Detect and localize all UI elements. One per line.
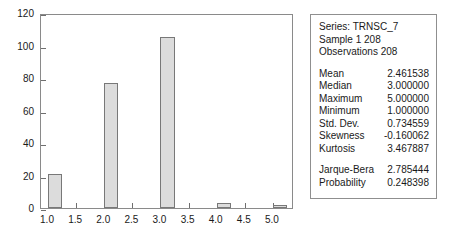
histogram-bar — [217, 203, 231, 208]
stats-header-line: Sample 1 208 — [319, 34, 429, 47]
stats-row-label: Jarque-Bera — [319, 164, 374, 177]
y-axis-tick-label: 60 — [0, 107, 34, 117]
x-axis-tick-label: 3.5 — [175, 215, 201, 225]
stats-row: Kurtosis3.467887 — [319, 143, 429, 156]
histogram-bar — [48, 174, 62, 208]
stats-row-value: 0.248398 — [387, 177, 429, 190]
x-axis-tick-label: 2.5 — [118, 215, 144, 225]
stats-header-line: Series: TRNSC_7 — [319, 21, 429, 34]
y-axis-tick-label: 0 — [0, 204, 34, 214]
spacer — [319, 155, 429, 164]
stats-row: Median3.000000 — [319, 80, 429, 93]
y-axis-tick-label: 40 — [0, 139, 34, 149]
stats-row: Maximum5.000000 — [319, 93, 429, 106]
stats-row-value: 2.461538 — [387, 68, 429, 81]
stats-test-row: Jarque-Bera2.785444 — [319, 164, 429, 177]
stats-header-line: Observations 208 — [319, 46, 429, 59]
stats-test-row: Probability0.248398 — [319, 177, 429, 190]
stats-row-label: Mean — [319, 68, 344, 81]
y-axis-tick-label: 100 — [0, 42, 34, 52]
stats-row: Std. Dev.0.734559 — [319, 118, 429, 131]
histogram-bar — [273, 205, 287, 208]
histogram-figure: 020406080100120 1.01.52.02.53.03.54.04.5… — [0, 0, 300, 240]
y-axis-tick-label: 120 — [0, 9, 34, 19]
x-axis-tick-label: 1.0 — [34, 215, 60, 225]
x-axis-tick-label: 5.0 — [259, 215, 285, 225]
stats-row-value: 3.467887 — [387, 143, 429, 156]
statistics-panel: Series: TRNSC_7Sample 1 208Observations … — [310, 14, 437, 199]
x-axis-tick-label: 4.5 — [231, 215, 257, 225]
stats-descriptive-rows: Mean2.461538Median3.000000Maximum5.00000… — [319, 68, 429, 156]
stats-row-label: Std. Dev. — [319, 118, 359, 131]
stats-row-label: Skewness — [319, 130, 365, 143]
stats-row-value: 0.734559 — [387, 118, 429, 131]
stats-row: Minimum1.000000 — [319, 105, 429, 118]
stats-row-value: -0.160062 — [384, 130, 429, 143]
x-axis-tick-label: 3.0 — [146, 215, 172, 225]
spacer — [319, 59, 429, 68]
stats-row-label: Kurtosis — [319, 143, 355, 156]
stats-row: Skewness-0.160062 — [319, 130, 429, 143]
stats-row: Mean2.461538 — [319, 68, 429, 81]
stats-row-value: 2.785444 — [387, 164, 429, 177]
x-axis-tick-label: 1.5 — [62, 215, 88, 225]
stats-row-label: Probability — [319, 177, 366, 190]
histogram-bar — [104, 83, 118, 208]
y-axis-tick — [41, 210, 46, 211]
y-axis-tick-label: 80 — [0, 74, 34, 84]
stats-header: Series: TRNSC_7Sample 1 208Observations … — [319, 21, 429, 59]
bars-layer — [41, 15, 292, 208]
stats-row-label: Median — [319, 80, 352, 93]
stats-row-value: 5.000000 — [387, 93, 429, 106]
plot-area — [40, 14, 293, 209]
histogram-bar — [160, 37, 174, 208]
stats-row-value: 1.000000 — [387, 105, 429, 118]
x-axis-tick-label: 2.0 — [90, 215, 116, 225]
stats-test-rows: Jarque-Bera2.785444Probability0.248398 — [319, 164, 429, 189]
stats-row-value: 3.000000 — [387, 80, 429, 93]
stats-row-label: Maximum — [319, 93, 362, 106]
x-axis-tick-label: 4.0 — [203, 215, 229, 225]
stats-row-label: Minimum — [319, 105, 360, 118]
y-axis-tick-label: 20 — [0, 172, 34, 182]
